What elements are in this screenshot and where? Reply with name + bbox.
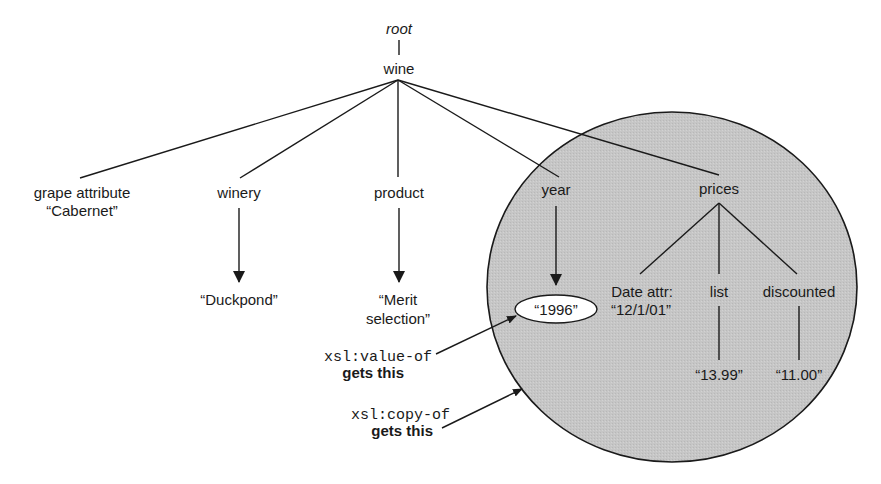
wine-node: wine — [383, 60, 415, 77]
product-node: product — [374, 184, 425, 201]
product-value-line1: “Merit — [379, 291, 418, 308]
grape-attribute-value: “Cabernet” — [46, 202, 118, 219]
value-of-caption: gets this — [342, 364, 404, 381]
edge-wine-year — [398, 80, 559, 177]
discounted-value: “11.00” — [776, 366, 822, 383]
winery-node: winery — [216, 184, 261, 201]
date-attribute-node: Date attr: — [611, 283, 673, 300]
grape-attribute-node: grape attribute — [34, 184, 131, 201]
date-attribute-value: “12/1/01” — [611, 301, 671, 318]
xml-tree-diagram: root wine grape attribute “Cabernet” win… — [0, 0, 881, 484]
edge-wine-grape — [80, 80, 398, 178]
year-value: “1996” — [534, 301, 577, 318]
root-label: root — [386, 20, 413, 37]
list-node: list — [710, 283, 729, 300]
edge-wine-winery — [240, 80, 398, 178]
list-value: “13.99” — [695, 366, 743, 383]
winery-value: “Duckpond” — [200, 291, 278, 308]
product-value-line2: selection” — [366, 310, 430, 327]
prices-node: prices — [699, 180, 739, 197]
discounted-node: discounted — [763, 283, 836, 300]
year-node: year — [541, 181, 570, 198]
copy-of-caption: gets this — [371, 422, 433, 439]
arrow-copy-of — [442, 389, 522, 428]
